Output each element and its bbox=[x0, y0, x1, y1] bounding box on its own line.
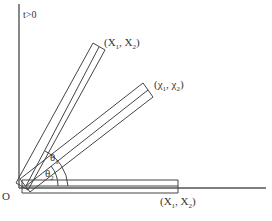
upper-bar-ray bbox=[26, 47, 99, 186]
upper-bar-label: (X1, X2) bbox=[104, 36, 140, 51]
theta1-label: θ1 bbox=[50, 151, 59, 166]
horizontal-bar-label: (X1, X2) bbox=[160, 195, 196, 210]
rotating-bars-diagram: θ1 θ2 t>0 O (X1, X2) (χ1, χ2) (X1, X2) bbox=[0, 0, 272, 221]
origin-label: O bbox=[2, 190, 10, 202]
middle-bar-label: (χ1, χ2) bbox=[154, 78, 184, 93]
vertical-axis-label: t>0 bbox=[23, 9, 36, 20]
